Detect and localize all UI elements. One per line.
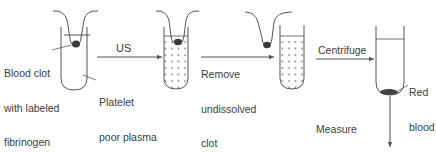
platelet-pointer <box>83 75 96 80</box>
label-line: Blood clot <box>4 68 59 80</box>
label-line: Remove <box>201 69 256 81</box>
label-blood-clot: Blood clot with labeled fibrinogen <box>4 45 59 152</box>
label-line: clot <box>201 138 256 150</box>
label-line: Measure <box>316 124 387 136</box>
label-line: Platelet <box>99 97 157 109</box>
tube-3 <box>280 25 304 89</box>
tube-4 <box>376 26 408 95</box>
label-line: Red <box>409 87 435 99</box>
label-remove-undissolved-clot: Remove undissolved clot <box>201 46 256 152</box>
tube-2 <box>156 11 199 89</box>
label-line: poor plasma <box>99 132 157 144</box>
label-measure-fluorescence: Measure fluorescence of supernatant <box>316 101 387 152</box>
label-line: with labeled <box>4 103 59 115</box>
label-line: blood <box>409 122 435 134</box>
label-platelet-poor-plasma: Platelet poor plasma <box>99 74 157 152</box>
label-red-blood-cells: Red blood cells <box>409 64 435 152</box>
label-centrifuge: Centrifuge <box>318 45 366 57</box>
label-line: fibrinogen <box>4 137 59 149</box>
undissolved-clot-icon <box>263 42 271 48</box>
blood-clot-icon <box>72 41 80 48</box>
clot-icon <box>174 39 182 45</box>
red-blood-cells-pellet-icon <box>380 89 398 95</box>
rbc-pointer <box>398 85 408 91</box>
label-us: US <box>116 43 131 55</box>
label-line: undissolved <box>201 104 256 116</box>
